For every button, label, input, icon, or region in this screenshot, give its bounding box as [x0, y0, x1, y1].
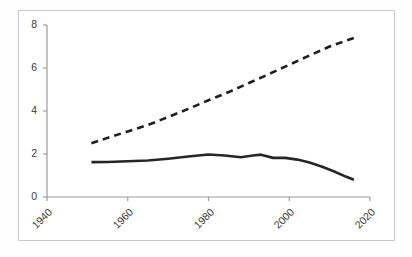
solid-series	[91, 154, 353, 179]
data-series-group	[91, 38, 353, 180]
plot-area: 02468 19401960198020002020	[0, 0, 412, 257]
y-tick-label: 4	[21, 104, 37, 116]
y-tick-label: 0	[21, 190, 37, 202]
x-tick-marks	[47, 197, 370, 201]
dashed-series	[91, 38, 353, 143]
y-tick-label: 8	[21, 18, 37, 30]
y-tick-label: 6	[21, 61, 37, 73]
axes-group	[47, 25, 370, 197]
y-tick-label: 2	[21, 147, 37, 159]
chart-root: 02468 19401960198020002020	[0, 0, 412, 257]
